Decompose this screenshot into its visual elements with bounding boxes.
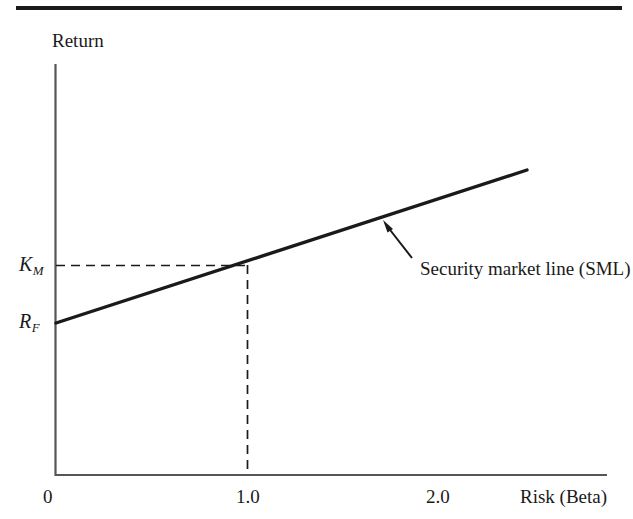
security-market-line bbox=[56, 170, 527, 323]
sml-annotation-label: Security market line (SML) bbox=[420, 258, 631, 280]
x-tick-label-0: 0 bbox=[43, 486, 53, 508]
km-subscript: M bbox=[33, 263, 44, 278]
y-axis-title: Return bbox=[52, 30, 104, 52]
rf-subscript: F bbox=[32, 320, 40, 335]
x-axis-title: Risk (Beta) bbox=[520, 486, 607, 508]
rf-axis-label: RF bbox=[19, 310, 40, 336]
figure-canvas: Return Risk (Beta) KM RF 0 1.0 2.0 Secur… bbox=[0, 0, 633, 519]
km-axis-label: KM bbox=[19, 253, 44, 279]
sml-annotation-arrow bbox=[383, 220, 412, 258]
x-tick-label-1: 1.0 bbox=[236, 486, 260, 508]
km-base: K bbox=[19, 253, 32, 275]
x-tick-label-2: 2.0 bbox=[426, 486, 450, 508]
rf-base: R bbox=[19, 310, 31, 332]
